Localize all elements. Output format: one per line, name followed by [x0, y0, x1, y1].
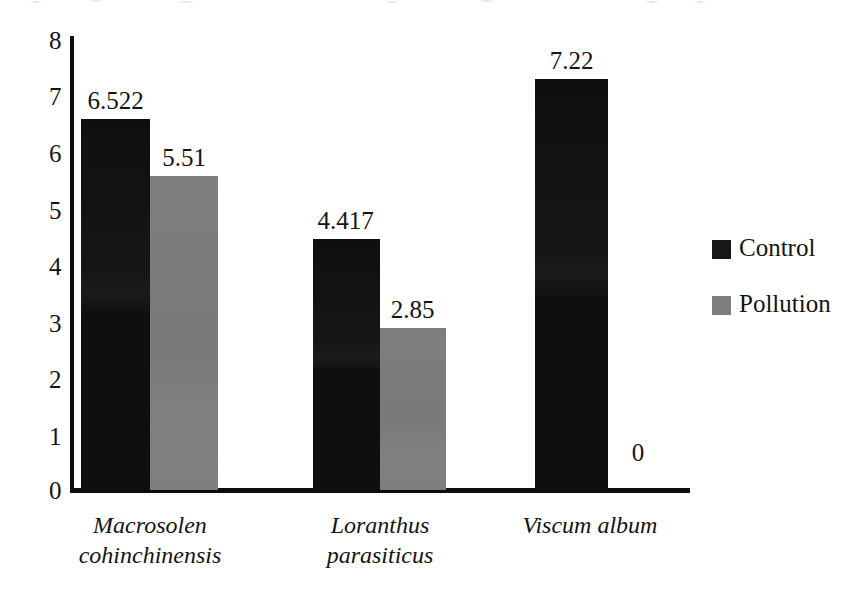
- category-label-line: Macrosolen: [55, 510, 245, 540]
- category-label-line: Viscum album: [490, 510, 690, 540]
- bar-control-macrosolen: [81, 119, 150, 490]
- category-label-line: Loranthus: [285, 510, 475, 540]
- legend-label-pollution: Pollution: [739, 290, 831, 318]
- category-label-viscum: Viscum album: [490, 510, 690, 540]
- legend-swatch-control-icon: [712, 240, 731, 259]
- value-label-control-macrosolen: 6.522: [81, 88, 150, 113]
- category-label-macrosolen: Macrosolen cohinchinensis: [55, 510, 245, 570]
- category-label-loranthus: Loranthus parasiticus: [285, 510, 475, 570]
- legend-label-control: Control: [739, 234, 815, 262]
- legend-swatch-pollution-icon: [712, 296, 731, 315]
- value-label-pollution-macrosolen: 5.51: [150, 145, 218, 170]
- value-label-pollution-viscum: 0: [608, 440, 668, 465]
- bar-control-viscum: [535, 79, 608, 490]
- bar-chart-figure: 8 7 6 5 4 3 2 1 0 6.522 5.51 4.417 2.85 …: [0, 0, 857, 598]
- bar-pollution-macrosolen: [150, 176, 218, 490]
- category-label-line: parasiticus: [285, 540, 475, 570]
- value-label-pollution-loranthus: 2.85: [379, 297, 446, 322]
- bar-control-loranthus: [313, 239, 380, 490]
- category-label-line: cohinchinensis: [55, 540, 245, 570]
- value-label-control-viscum: 7.22: [535, 48, 608, 73]
- value-label-control-loranthus: 4.417: [311, 208, 380, 233]
- bar-pollution-loranthus: [380, 328, 446, 490]
